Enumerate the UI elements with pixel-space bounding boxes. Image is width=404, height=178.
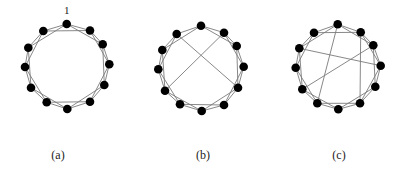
graph-edge	[67, 24, 103, 44]
graph-node-9	[298, 85, 307, 94]
graph-edge	[180, 104, 224, 105]
panel-a-caption: (a)	[51, 148, 64, 163]
graph-node-7	[63, 105, 72, 114]
graph-node-12	[172, 30, 181, 39]
graph-edge	[165, 91, 202, 111]
graph-edge	[201, 26, 237, 46]
graph-edge	[165, 33, 224, 91]
graph-edge	[360, 32, 361, 103]
graph-node-9	[27, 83, 36, 92]
graph-node-2	[356, 28, 365, 37]
graph-edge	[90, 31, 109, 65]
graph-node-10	[291, 63, 300, 72]
edges	[296, 24, 381, 109]
graph-edge	[296, 68, 318, 104]
graph-node-8	[176, 100, 185, 109]
graph-node-11	[24, 43, 33, 52]
graph-node-3	[98, 40, 107, 49]
graph-edge	[202, 88, 238, 111]
graph-node-6	[86, 97, 95, 106]
graph-node-7	[334, 105, 343, 114]
graph-edge	[338, 24, 374, 45]
graph-node-6	[356, 99, 365, 108]
graph-edge	[361, 32, 381, 65]
graph-node-11	[158, 46, 167, 55]
panel-b-rewired-network	[154, 21, 248, 115]
graph-node-3	[232, 42, 241, 51]
graph-node-4	[239, 62, 248, 71]
graph-edge	[299, 24, 337, 48]
nodes	[154, 21, 248, 115]
nodes	[21, 20, 114, 114]
graph-node-10	[21, 63, 30, 72]
graph-edge	[302, 45, 373, 89]
graph-node-12	[39, 27, 48, 36]
graph-edge	[28, 24, 66, 48]
graph-node-2	[86, 26, 95, 35]
graph-node-11	[295, 44, 304, 53]
graph-edge	[103, 44, 105, 85]
graph-node-1	[62, 20, 71, 29]
graph-node-4	[105, 60, 114, 69]
graph-node-9	[161, 86, 170, 95]
graph-node-2	[220, 28, 229, 37]
graph-edge	[177, 34, 238, 88]
graph-node-7	[197, 107, 206, 116]
edges	[25, 24, 109, 109]
panel-a-regular-ring-lattice	[21, 20, 114, 114]
graph-node-12	[310, 28, 319, 37]
graph-node-5	[100, 81, 109, 90]
graph-node-3	[369, 41, 378, 50]
graph-node-5	[371, 82, 380, 91]
graph-node-1	[333, 20, 342, 29]
graph-edge	[43, 31, 90, 32]
graph-node-1	[197, 21, 206, 30]
panel-b-caption: (b)	[196, 148, 210, 163]
graph-edge	[237, 46, 238, 88]
graph-node-4	[376, 61, 385, 70]
node-1-label: 1	[64, 4, 70, 16]
graph-node-8	[313, 99, 322, 108]
graph-node-5	[234, 83, 243, 92]
panel-c-caption: (c)	[332, 148, 345, 163]
graph-edge	[67, 85, 104, 109]
graph-edge	[47, 102, 90, 103]
graph-node-8	[42, 98, 51, 107]
graph-node-10	[154, 65, 163, 74]
graph-edge	[224, 33, 244, 67]
graph-edge	[317, 24, 337, 103]
graph-edge	[373, 45, 375, 86]
graph-node-6	[220, 101, 229, 110]
panel-c-more-rewired-network	[291, 20, 385, 114]
graph-edge	[299, 48, 380, 65]
edges	[158, 26, 243, 111]
